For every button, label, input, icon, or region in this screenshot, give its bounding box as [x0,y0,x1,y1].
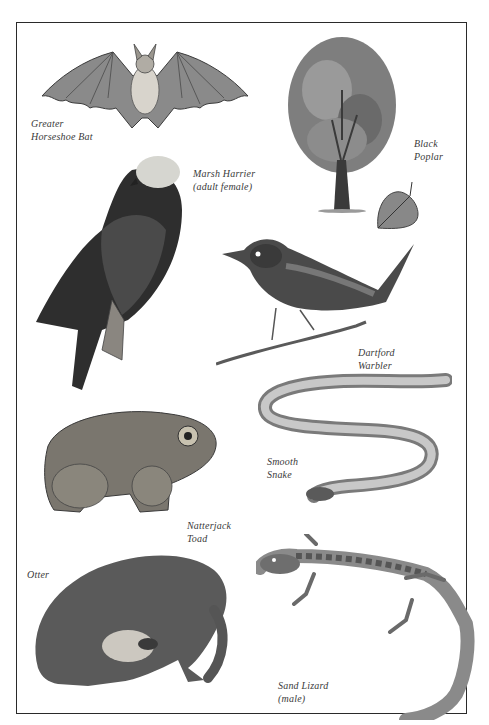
otter-illustration [28,550,233,700]
bat-label-line1: Greater [31,117,93,130]
harrier-label: Marsh Harrier (adult female) [193,167,255,193]
natterjack-toad-illustration [40,406,220,516]
harrier-label-line1: Marsh Harrier [193,167,255,180]
otter-label-line1: Otter [27,568,49,581]
harrier-label-line2: (adult female) [193,180,255,193]
warbler-label-line2: Warbler [358,359,395,372]
bat-label-line2: Horseshoe Bat [31,130,93,143]
warbler-label-line1: Dartford [358,346,395,359]
marsh-harrier-illustration [32,150,184,390]
snake-label: Smooth Snake [267,455,298,481]
warbler-label: Dartford Warbler [358,346,395,372]
lizard-label-line1: Sand Lizard [278,679,328,692]
black-poplar-leaf-illustration [374,180,422,232]
lizard-label-line2: (male) [278,692,328,705]
poplar-label-line1: Black [414,137,443,150]
poplar-label: Black Poplar [414,137,443,163]
smooth-snake-illustration [258,372,452,507]
snake-label-line2: Snake [267,468,298,481]
otter-label: Otter [27,568,49,581]
toad-label-line2: Toad [187,532,231,545]
toad-label-line1: Natterjack [187,519,231,532]
toad-label: Natterjack Toad [187,519,231,545]
snake-label-line1: Smooth [267,455,298,468]
lizard-label: Sand Lizard (male) [278,679,328,705]
poplar-label-line2: Poplar [414,150,443,163]
bat-label: Greater Horseshoe Bat [31,117,93,143]
